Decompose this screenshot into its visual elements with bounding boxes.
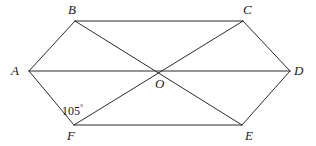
- segment-DE: [242, 71, 290, 125]
- segment-CD: [243, 21, 290, 71]
- vertex-label-A: A: [11, 64, 19, 77]
- vertex-label-B: B: [68, 3, 76, 16]
- vertex-label-F: F: [67, 129, 75, 142]
- vertex-label-D: D: [294, 64, 303, 77]
- vertex-label-E: E: [245, 129, 253, 142]
- degree-symbol-icon: °: [80, 103, 83, 112]
- angle-value: 105: [62, 104, 80, 118]
- vertex-label-C: C: [243, 3, 252, 16]
- segment-AB: [29, 21, 75, 71]
- hexagon-diagram-canvas: [0, 0, 316, 146]
- geometry-figure: A B C D E F O 105°: [0, 0, 316, 146]
- angle-label-at-F: 105°: [62, 104, 83, 117]
- vertex-label-O: O: [155, 77, 164, 90]
